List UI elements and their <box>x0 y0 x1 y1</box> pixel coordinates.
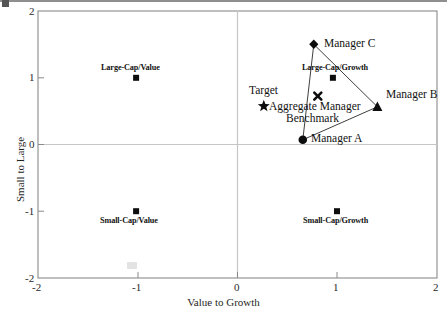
x-tick-label-2: 2 <box>433 281 439 293</box>
label-large-cap-growth: Large-Cap/Growth <box>302 63 368 72</box>
label-aggregate-benchmark-line2: Benchmark <box>286 112 339 124</box>
label-manager-b: Manager B <box>386 88 437 100</box>
label-aggregate-benchmark-line1: Aggregate Manager <box>269 100 361 112</box>
y-tick-label-neg2: -2 <box>25 272 34 284</box>
x-tick-label-neg1: -1 <box>132 281 141 293</box>
marker-small-cap-value <box>133 208 139 214</box>
y-tick-label-neg1: -1 <box>25 205 34 217</box>
label-small-cap-value: Small-Cap/Value <box>100 216 158 225</box>
marker-small-cap-growth <box>334 208 340 214</box>
scan-artifact <box>127 262 137 269</box>
marker-large-cap-growth <box>330 75 336 81</box>
y-tick-label-2: 2 <box>29 5 35 17</box>
x-tick-label-1: 1 <box>333 281 339 293</box>
y-tick-label-0: 0 <box>29 138 35 150</box>
marker-manager-a-circle <box>299 136 308 145</box>
x-tick-label-0: 0 <box>234 281 240 293</box>
y-axis-ticks <box>38 78 44 211</box>
plot-canvas <box>0 0 447 315</box>
label-manager-a: Manager A <box>311 132 362 144</box>
marker-large-cap-value <box>133 75 139 81</box>
scatter-chart: Value to Growth Small to Large -2 -1 0 1… <box>0 0 447 315</box>
marker-target-star <box>258 100 270 111</box>
label-large-cap-value: Large-Cap/Value <box>101 63 160 72</box>
label-small-cap-growth: Small-Cap/Growth <box>303 216 368 225</box>
marker-aggregate-benchmark-x <box>314 93 321 100</box>
x-axis-ticks <box>138 272 337 278</box>
y-tick-label-1: 1 <box>29 71 35 83</box>
label-target: Target <box>249 84 278 96</box>
y-axis-title: Small to Large <box>14 137 26 202</box>
label-manager-c: Manager C <box>324 37 375 49</box>
x-axis-title: Value to Growth <box>0 296 447 308</box>
